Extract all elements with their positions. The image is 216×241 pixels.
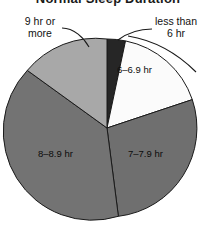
pie-label-8-to-8-9hr: 8–8.9 hr xyxy=(38,148,73,159)
pie-label-less-than-6hr: less than 6 hr xyxy=(142,16,210,39)
pie-label-9hr-or-more-line1: 9 hr or xyxy=(8,16,72,28)
pie-label-less-than-6hr-line1: less than xyxy=(142,16,210,28)
pie-label-less-than-6hr-line2: 6 hr xyxy=(142,28,210,40)
pie-chart-figure: Normal Sleep Duration 9 hr or more less … xyxy=(0,0,216,241)
pie-label-7-to-7-9hr: 7–7.9 hr xyxy=(128,148,163,159)
pie-label-6-to-6-9hr: 6–6.9 hr xyxy=(117,64,152,75)
pie-label-9hr-or-more-line2: more xyxy=(8,28,72,40)
pie-label-9hr-or-more: 9 hr or more xyxy=(8,16,72,39)
